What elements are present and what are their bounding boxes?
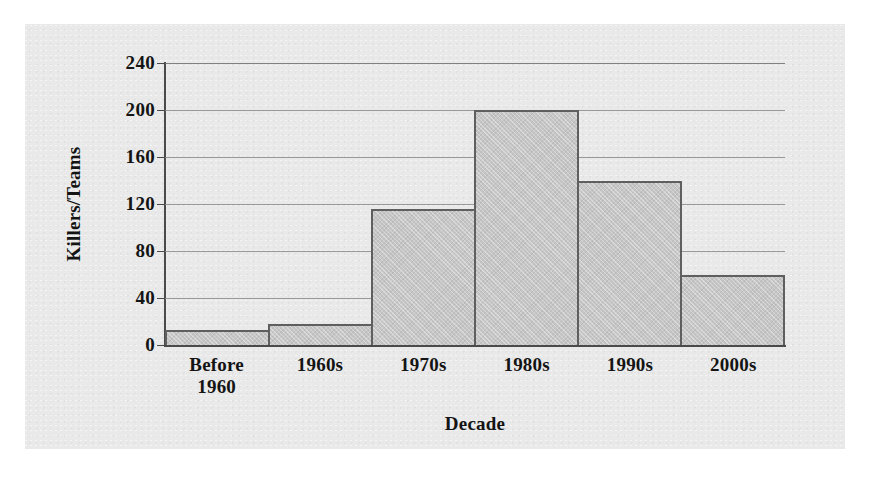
x-axis-line — [164, 345, 786, 347]
bar-2000s — [680, 275, 785, 346]
y-tick-mark-40 — [157, 298, 165, 299]
y-tick-label-0: 0 — [91, 334, 155, 356]
bar-before-1960 — [165, 330, 270, 345]
y-tick-mark-240 — [157, 63, 165, 64]
x-tick-label-1960s: 1960s — [268, 354, 371, 398]
bar-1990s — [577, 181, 682, 346]
y-tick-label-40: 40 — [91, 287, 155, 309]
x-tick-label-before-1960: Before1960 — [165, 354, 268, 398]
y-tick-label-200: 200 — [91, 99, 155, 121]
x-tick-label-line: 1990s — [607, 354, 653, 375]
x-tick-label-line: Before — [189, 354, 244, 375]
y-axis-title-label: Killers/Teams — [63, 147, 85, 262]
y-tick-label-240: 240 — [91, 52, 155, 74]
x-axis-title: Decade — [165, 413, 785, 435]
x-tick-label-line: 1970s — [400, 354, 446, 375]
x-tick-label-2000s: 2000s — [682, 354, 785, 398]
bar-1970s — [371, 209, 476, 345]
x-tick-label-line: 2000s — [710, 354, 756, 375]
x-tick-label-line: 1980s — [503, 354, 549, 375]
y-axis-title: Killers/Teams — [61, 63, 87, 345]
x-axis-tick-labels: Before19601960s1970s1980s1990s2000s — [165, 354, 785, 398]
bar-series — [165, 63, 785, 345]
y-tick-label-80: 80 — [91, 240, 155, 262]
y-tick-mark-160 — [157, 157, 165, 158]
x-tick-label-line: 1960s — [297, 354, 343, 375]
bar-1960s — [268, 324, 373, 345]
x-tick-label-1990s: 1990s — [578, 354, 681, 398]
y-tick-mark-200 — [157, 110, 165, 111]
y-tick-label-120: 120 — [91, 193, 155, 215]
plot-area — [165, 63, 785, 345]
y-tick-mark-120 — [157, 204, 165, 205]
figure-panel: Killers/Teams Before19601960s1970s1980s1… — [25, 24, 845, 449]
page-residual-text — [28, 464, 852, 477]
x-tick-label-1980s: 1980s — [475, 354, 578, 398]
y-tick-mark-0 — [157, 345, 165, 346]
y-tick-mark-80 — [157, 251, 165, 252]
y-tick-label-160: 160 — [91, 146, 155, 168]
x-tick-label-1970s: 1970s — [372, 354, 475, 398]
x-tick-label-line: 1960 — [165, 376, 268, 398]
bar-1980s — [474, 110, 579, 345]
